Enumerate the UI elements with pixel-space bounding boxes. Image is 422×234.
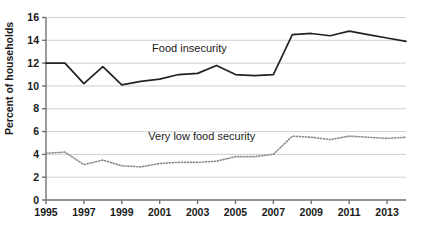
line-chart: 0246810121416 19951997199920012003200520… [0, 0, 422, 234]
x-tick-label: 1999 [110, 206, 134, 218]
series-line-food-insecurity [46, 31, 406, 85]
x-tick-label: 2007 [262, 206, 286, 218]
y-tick-label: 2 [33, 171, 39, 183]
x-tick-label: 1997 [72, 206, 96, 218]
y-tick-label: 10 [27, 80, 39, 92]
y-tick-label: 8 [33, 102, 39, 114]
x-tick-label: 2013 [375, 206, 399, 218]
x-tick-label: 2003 [186, 206, 210, 218]
x-tick-label: 1995 [34, 206, 58, 218]
y-tick-label: 0 [33, 194, 39, 206]
y-tick-label: 6 [33, 125, 39, 137]
series-label-very-low-food-security: Very low food security [148, 130, 255, 142]
y-tick-label: 4 [33, 148, 39, 160]
chart-container: 0246810121416 19951997199920012003200520… [0, 0, 422, 234]
y-axis-title: Percent of households [3, 22, 15, 135]
x-tick-label: 2001 [148, 206, 172, 218]
y-tick-label: 16 [27, 11, 39, 23]
y-axis-ticks: 0246810121416 [27, 11, 46, 206]
y-tick-label: 12 [27, 57, 39, 69]
series-label-food-insecurity: Food insecurity [152, 42, 227, 54]
x-tick-label: 2009 [300, 206, 324, 218]
x-tick-label: 2005 [224, 206, 248, 218]
x-axis-ticks: 1995199719992001200320052007200920112013 [34, 200, 399, 218]
y-tick-label: 14 [27, 34, 39, 46]
x-tick-label: 2011 [338, 206, 361, 218]
